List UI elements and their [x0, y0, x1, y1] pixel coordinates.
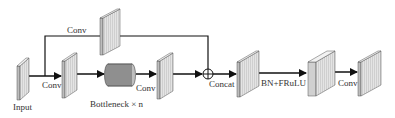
csp-module-diagram: Input Conv Conv Bottleneck × n Conv Conc… [0, 0, 395, 118]
conv-feature-block-2 [157, 53, 173, 99]
conv-top-label: Conv [67, 25, 87, 35]
concat-feature-block [237, 51, 259, 97]
input-label: Input [13, 102, 32, 112]
conv-input-label: Conv [42, 80, 62, 90]
conv-feature-block-1 [62, 53, 77, 98]
bottleneck-label: Bottleneck × n [90, 99, 144, 109]
bn-activation-block [308, 51, 335, 96]
bn-activation-label: BN+FRuLU [261, 78, 307, 88]
connections [28, 36, 357, 76]
concat-label: Concat [209, 79, 235, 89]
concat-plus-icon [203, 69, 213, 79]
conv-after-bottleneck-label: Conv [136, 83, 156, 93]
conv-feature-block-final [358, 51, 381, 96]
conv-feature-block-top [100, 9, 120, 55]
conv-final-label: Conv [338, 78, 358, 88]
input-feature-block [17, 58, 29, 100]
bottleneck-cylinder [105, 64, 136, 86]
